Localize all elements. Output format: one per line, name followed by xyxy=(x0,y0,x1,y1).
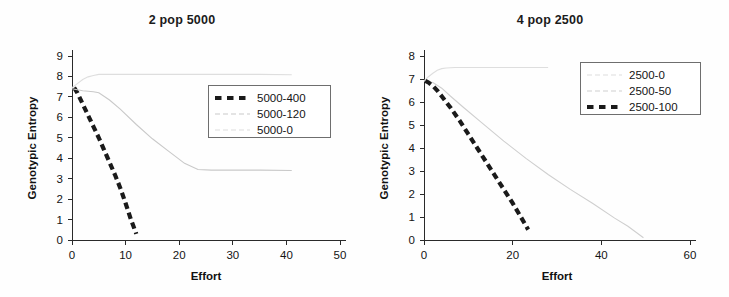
y-tick-label: 0 xyxy=(409,234,415,246)
x-tick-label: 50 xyxy=(334,249,347,261)
x-tick-label: 0 xyxy=(69,249,75,261)
y-tick-label: 3 xyxy=(57,173,63,185)
chart-panel-right: 4 pop 25000123456780204060EffortGenotypi… xyxy=(364,0,728,297)
y-tick-label: 6 xyxy=(409,96,415,108)
y-tick-label: 1 xyxy=(409,211,415,223)
y-tick-label: 9 xyxy=(57,50,63,62)
x-axis-title: Effort xyxy=(542,270,573,282)
y-tick-label: 4 xyxy=(57,152,64,164)
legend-label-2500-100: 2500-100 xyxy=(629,101,678,113)
y-tick-label: 5 xyxy=(57,132,63,144)
y-tick-label: 0 xyxy=(57,234,63,246)
y-tick-label: 8 xyxy=(409,50,415,62)
y-axis-title: Genotypic Entropy xyxy=(26,96,38,199)
x-axis-title: Effort xyxy=(191,270,222,282)
y-tick-label: 7 xyxy=(409,73,415,85)
legend-label-5000-120: 5000-120 xyxy=(257,108,306,120)
chart-panel-left: 2 pop 5000012345678901020304050EffortGen… xyxy=(0,0,364,297)
x-tick-label: 20 xyxy=(173,249,186,261)
y-tick-label: 7 xyxy=(57,91,63,103)
x-tick-label: 0 xyxy=(421,249,427,261)
y-tick-label: 6 xyxy=(57,111,63,123)
chart-title: 2 pop 5000 xyxy=(149,13,216,27)
y-tick-label: 8 xyxy=(57,70,63,82)
legend-label-2500-50: 2500-50 xyxy=(629,85,671,97)
chart-left-svg: 2 pop 5000012345678901020304050EffortGen… xyxy=(0,0,364,297)
y-tick-label: 2 xyxy=(409,188,415,200)
x-tick-label: 10 xyxy=(119,249,132,261)
series-line-2500-100 xyxy=(425,81,528,230)
y-tick-label: 1 xyxy=(57,214,63,226)
legend-label-2500-0: 2500-0 xyxy=(629,69,665,81)
y-tick-label: 5 xyxy=(409,119,415,131)
y-tick-label: 3 xyxy=(409,165,415,177)
chart-right-svg: 4 pop 25000123456780204060EffortGenotypi… xyxy=(364,0,728,297)
y-axis-title: Genotypic Entropy xyxy=(378,96,390,199)
y-tick-label: 4 xyxy=(409,142,416,154)
x-tick-label: 60 xyxy=(684,249,697,261)
x-tick-label: 40 xyxy=(595,249,608,261)
x-tick-label: 40 xyxy=(280,249,293,261)
y-tick-label: 2 xyxy=(57,193,63,205)
figure-container: 2 pop 5000012345678901020304050EffortGen… xyxy=(0,0,729,297)
series-line-5000-400 xyxy=(74,88,136,234)
legend-label-5000-400: 5000-400 xyxy=(257,92,306,104)
series-line-2500-0 xyxy=(424,68,548,81)
chart-title: 4 pop 2500 xyxy=(517,13,584,27)
x-tick-label: 30 xyxy=(226,249,239,261)
x-tick-label: 20 xyxy=(506,249,519,261)
legend-label-5000-0: 5000-0 xyxy=(257,124,293,136)
